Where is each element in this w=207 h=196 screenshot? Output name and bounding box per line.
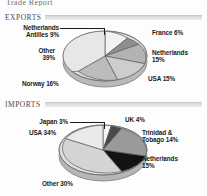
imports-pie-svg — [58, 120, 148, 186]
imports-label-other: Other 30% — [42, 180, 73, 187]
exports-label-other: Other 39% — [0, 47, 55, 62]
imports-label-usa: USA 34% — [0, 129, 56, 136]
exports-pie — [62, 26, 148, 90]
exports-label-netherlands: Netherlands 15% — [152, 49, 188, 64]
exports-label-netherlands-line1: Netherlands — [152, 49, 188, 56]
exports-label-france: France 6% — [152, 29, 183, 36]
imports-label-trinidad-tobago-line2: Tobago 14% — [142, 136, 178, 143]
imports-label-netherlands-line2: 15% — [142, 162, 155, 169]
exports-title: EXPORTS — [5, 13, 41, 22]
imports-leader-line-horizontal — [70, 122, 105, 123]
exports-header-rule — [45, 15, 202, 20]
imports-header-rule — [45, 102, 202, 107]
exports-label-other-line1: Other — [38, 47, 55, 54]
exports-label-netherlands-antilles-line2: Antilles 9% — [26, 31, 59, 38]
exports-section-header: EXPORTS — [5, 12, 202, 22]
exports-label-netherlands-line2: 15% — [152, 56, 165, 63]
report-page: Trade Report EXPORTS — [0, 0, 207, 196]
imports-label-japan: Japan 3% — [0, 118, 68, 125]
imports-pie — [58, 120, 148, 186]
imports-label-netherlands-line1: Netherlands — [142, 155, 178, 162]
imports-chart: Japan 3% USA 34% Other 30% UK 4% Trinida… — [0, 110, 207, 196]
exports-label-usa: USA 15% — [148, 75, 175, 82]
imports-section-header: IMPORTS — [5, 99, 202, 109]
imports-label-trinidad-tobago: Trinidad & Tobago 14% — [142, 129, 178, 144]
exports-leader-line-vertical — [104, 28, 105, 35]
exports-chart: Netherlands Antilles 9% Other 39% Norway… — [0, 22, 207, 94]
clipped-document-heading: Trade Report — [6, 0, 156, 6]
exports-label-netherlands-antilles: Netherlands Antilles 9% — [0, 24, 59, 39]
imports-label-netherlands: Netherlands 15% — [142, 155, 178, 170]
exports-label-other-line2: 39% — [43, 54, 56, 61]
imports-title: IMPORTS — [5, 100, 41, 109]
imports-label-trinidad-tobago-line1: Trinidad & — [142, 129, 172, 136]
imports-leader-line-vertical — [104, 122, 105, 129]
exports-pie-svg — [62, 26, 148, 90]
exports-leader-line-horizontal — [60, 28, 105, 29]
exports-label-netherlands-antilles-line1: Netherlands — [23, 24, 59, 31]
imports-label-uk: UK 4% — [125, 116, 145, 123]
exports-label-norway: Norway 16% — [22, 80, 59, 87]
